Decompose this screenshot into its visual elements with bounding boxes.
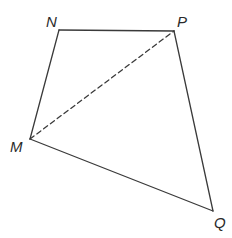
vertex-label-p: P xyxy=(177,13,187,30)
quadrilateral-diagram: N P M Q xyxy=(0,0,232,238)
edge-pq xyxy=(174,31,213,211)
diagram-canvas: N P M Q xyxy=(0,0,232,238)
edge-np xyxy=(59,30,174,31)
vertex-label-n: N xyxy=(46,13,57,30)
edges xyxy=(30,30,213,211)
edge-qm xyxy=(30,139,213,211)
vertex-label-m: M xyxy=(10,138,23,155)
dashed-diagonal-mp xyxy=(30,31,174,139)
edge-mn xyxy=(30,30,59,139)
vertex-label-q: Q xyxy=(214,214,226,231)
